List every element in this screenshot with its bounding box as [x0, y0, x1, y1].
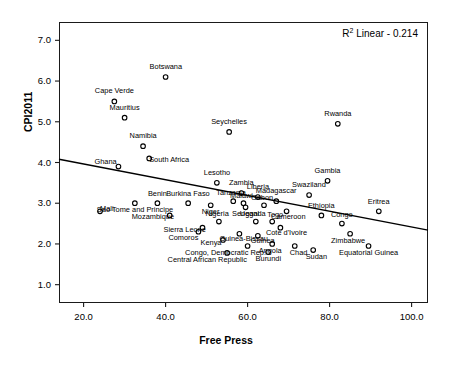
scatter-point — [227, 130, 232, 135]
point-label: Burundi — [256, 255, 281, 262]
scatter-point — [262, 203, 267, 208]
scatter-point — [307, 193, 312, 198]
y-tick-label: 7.0 — [23, 34, 51, 45]
point-label: Nigeria — [205, 210, 228, 217]
point-label: Swaziland — [292, 181, 326, 188]
scatter-point — [340, 221, 345, 226]
point-label: Gambia — [315, 167, 341, 174]
x-axis-title: Free Press — [0, 334, 452, 346]
point-label: Sudan — [306, 253, 327, 260]
scatter-points — [98, 75, 381, 256]
point-label: Cote d'Ivoire — [266, 229, 307, 236]
x-axis-tick-marks — [84, 303, 412, 307]
x-tick-label: 80.0 — [305, 311, 355, 322]
point-label: Congo — [331, 211, 353, 218]
point-label: Cape Verde — [95, 87, 134, 94]
y-tick-label: 3.0 — [23, 197, 51, 208]
point-label: Benin — [148, 190, 167, 197]
point-label: Burkina Faso — [166, 190, 210, 197]
point-label: Ethiopia — [308, 202, 335, 209]
point-label: Equatorial Guinea — [339, 249, 398, 256]
point-label: Guinea — [251, 237, 275, 244]
point-label: South Africa — [149, 156, 189, 163]
x-tick-label: 20.0 — [59, 311, 109, 322]
scatter-point — [319, 213, 324, 218]
point-label: Malawi — [230, 192, 253, 199]
point-label: Ghana — [94, 158, 116, 165]
r-squared-annotation: R2 Linear - 0.214 — [342, 27, 418, 39]
point-label: Sierra Leone — [164, 226, 206, 233]
point-label: Mauritius — [110, 104, 140, 111]
scatter-point — [377, 209, 382, 214]
y-tick-label: 2.0 — [23, 238, 51, 249]
point-label: Comoros — [168, 234, 198, 241]
point-label: Seychelles — [211, 118, 247, 125]
scatter-point — [122, 115, 127, 120]
x-tick-label: 40.0 — [141, 311, 191, 322]
point-label: Mozambique — [132, 213, 174, 220]
y-tick-label: 6.0 — [23, 75, 51, 86]
scatter-point — [254, 219, 259, 224]
y-axis-tick-marks — [55, 40, 59, 284]
scatter-point — [186, 201, 191, 206]
point-label: Uganda — [240, 210, 266, 217]
point-label: Rwanda — [324, 110, 351, 117]
scatter-point — [217, 219, 222, 224]
point-label: Kenya — [201, 239, 222, 246]
y-tick-label: 4.0 — [23, 157, 51, 168]
y-axis-title: CPI2011 — [22, 92, 34, 132]
point-label: Namibia — [130, 132, 157, 139]
point-label: Togo — [267, 211, 283, 218]
point-label: Gabon — [251, 194, 273, 201]
point-label: Botswana — [150, 63, 182, 70]
scatter-point — [336, 122, 341, 127]
y-tick-label: 1.0 — [23, 279, 51, 290]
point-label: Zimbabwe — [331, 237, 365, 244]
scatter-point — [325, 179, 330, 184]
x-tick-label: 60.0 — [223, 311, 273, 322]
chart-container: 1.02.03.04.05.06.07.0 20.040.060.080.010… — [0, 0, 452, 365]
point-label: Eritrea — [368, 198, 390, 205]
x-tick-label: 100.0 — [387, 311, 437, 322]
scatter-point — [163, 75, 168, 80]
scatter-point — [141, 144, 146, 149]
point-label: Lesotho — [204, 169, 230, 176]
scatter-point — [215, 181, 220, 186]
point-label: Central African Republic — [168, 256, 247, 263]
